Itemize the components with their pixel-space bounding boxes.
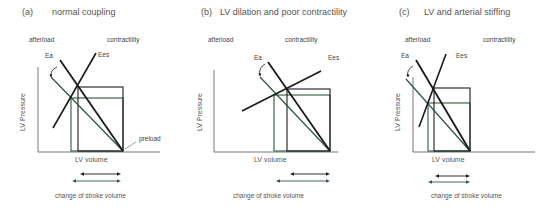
ees-line (419, 54, 446, 127)
afterload-label: afterload (208, 36, 234, 43)
stroke-volume-arrow-green (428, 180, 470, 184)
afterload-label: afterload (405, 36, 431, 43)
arrowhead-icon (258, 74, 261, 77)
y-axis-label: LV Pressure (394, 93, 401, 131)
panel-letter: (c) (399, 7, 410, 17)
arrowhead-icon (49, 75, 52, 78)
panel-a: (a)normal couplingafterloadcontractility… (19, 7, 161, 200)
ea-label: Ea (45, 52, 53, 59)
y-axis-label: LV Pressure (196, 93, 203, 131)
contractility-label: contractility (107, 36, 140, 44)
ea-line-green (406, 79, 470, 151)
footer-label: change of stroke volume (55, 192, 126, 200)
x-axis-label: LV volume (432, 156, 465, 163)
ea-label: Ea (254, 54, 262, 61)
ea-label: Ea (401, 52, 409, 59)
panel-title: LV and arterial stiffing (424, 7, 510, 17)
panel-letter: (b) (201, 7, 212, 17)
x-axis-label: LV volume (254, 156, 287, 163)
panel-b: (b)LV dilation and poor contractilityaft… (196, 7, 347, 200)
stroke-volume-arrow-black (435, 174, 470, 178)
x-axis-label: LV volume (75, 156, 108, 163)
panel-letter: (a) (22, 7, 33, 17)
afterload-label: afterload (29, 36, 55, 43)
ea-line-green (260, 77, 330, 151)
panel-title: normal coupling (52, 7, 116, 17)
ees-label: Ees (456, 52, 468, 59)
contractility-label: contractility (285, 36, 318, 44)
y-axis-label: LV Pressure (19, 93, 26, 131)
stroke-volume-arrow-green (72, 179, 121, 183)
panel-title: LV dilation and poor contractility (220, 7, 347, 17)
stroke-volume-arrow-green (276, 179, 330, 183)
pv-loop-diagram: (a)normal couplingafterloadcontractility… (0, 0, 550, 213)
preload-label: preload (139, 135, 161, 143)
stroke-volume-arrow-black (80, 172, 121, 176)
footer-label: change of stroke volume (431, 192, 502, 200)
axes (413, 77, 535, 152)
arrowhead-icon (406, 75, 409, 78)
ea-line-black (60, 60, 123, 151)
panel-c: (c)LV and arterial stiffingafterloadcont… (394, 7, 535, 200)
contractility-label: contractility (483, 36, 516, 44)
ea-line-black (268, 62, 330, 151)
stroke-volume-arrow-black (290, 172, 330, 176)
footer-label: change of stroke volume (233, 192, 304, 200)
ees-label: Ees (328, 54, 340, 61)
preload-pointer (125, 142, 136, 149)
ees-line (242, 71, 321, 111)
ees-label: Ees (98, 51, 110, 58)
ea-line-black (416, 60, 470, 151)
